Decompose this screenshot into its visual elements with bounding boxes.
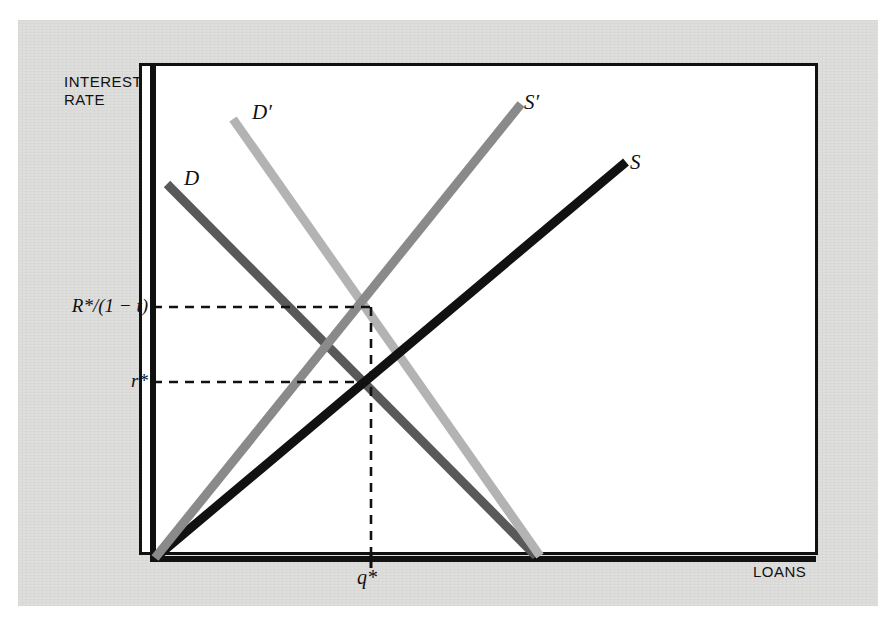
x-axis-caption: LOANS: [753, 563, 806, 581]
curve-demand-shifted: [233, 119, 540, 556]
curve-label-supply: S: [630, 150, 641, 175]
curve-label-demand-shifted: D′: [252, 100, 272, 125]
figure-canvas: INTEREST RATE LOANS R*/(1 − t) r* q* D D…: [0, 0, 896, 622]
y-tick-label-upper: R*/(1 − t): [72, 295, 148, 317]
x-tick-label-equilibrium: q*: [357, 566, 377, 589]
y-axis-caption: INTEREST RATE: [64, 73, 142, 108]
curve-label-supply-shifted: S′: [524, 90, 539, 115]
curve-label-demand: D: [184, 166, 199, 191]
y-tick-label-lower: r*: [131, 370, 148, 392]
curve-supply: [155, 162, 626, 558]
